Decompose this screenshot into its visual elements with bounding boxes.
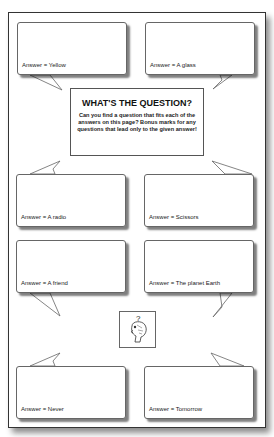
answer-text: Answer = A radio — [21, 214, 66, 220]
answer-text: Answer = Scissors — [149, 214, 199, 220]
answer-bubble-8: Answer = Tomorrow — [144, 366, 254, 419]
answer-text: Answer = Yellow — [22, 62, 66, 68]
answer-text: Answer = A glass — [150, 62, 196, 68]
answer-bubble-3: Answer = A radio — [16, 174, 126, 227]
instructions-text: Can you find a question that fits each o… — [77, 112, 197, 133]
thinking-head-icon: ? — [119, 311, 156, 348]
answer-bubble-1: Answer = Yellow — [17, 22, 127, 75]
answer-text: Answer = The planet Earth — [149, 280, 220, 286]
answer-bubble-5: Answer = A friend — [16, 240, 126, 293]
answer-bubble-6: Answer = The planet Earth — [144, 240, 254, 293]
worksheet-title: WHAT'S THE QUESTION? — [71, 98, 203, 108]
answer-text: Answer = Tomorrow — [149, 406, 202, 412]
answer-text: Answer = A friend — [21, 280, 68, 286]
instructions-box: WHAT'S THE QUESTION? Can you find a ques… — [70, 88, 204, 156]
answer-bubble-4: Answer = Scissors — [144, 174, 254, 227]
answer-bubble-2: Answer = A glass — [145, 22, 255, 75]
answer-bubble-7: Answer = Never — [16, 366, 126, 419]
answer-text: Answer = Never — [21, 406, 64, 412]
